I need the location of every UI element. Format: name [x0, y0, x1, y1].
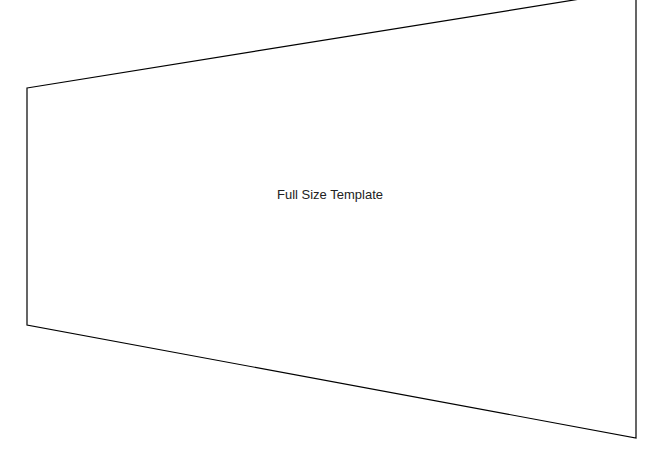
template-label: Full Size Template [277, 187, 383, 202]
perspective-template-frame [0, 0, 656, 449]
template-outline [27, 0, 636, 438]
